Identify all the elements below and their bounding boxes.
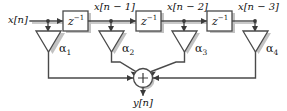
- junction-dot-1: [46, 19, 50, 23]
- delay-block-1-exp: −1: [74, 14, 84, 22]
- coefficient-label-alpha-1-index: 1: [66, 48, 71, 57]
- coefficient-label-alpha-4-index: 4: [273, 48, 278, 57]
- coefficient-label-alpha-2: α2: [122, 43, 134, 57]
- input-label: x[n]: [8, 15, 28, 25]
- junction-dot-2: [109, 19, 113, 23]
- delay-block-2-label: z−1: [141, 15, 157, 27]
- signal-label-x-n-1: x[n − 1]: [94, 2, 135, 12]
- coefficient-label-alpha-3-index: 3: [202, 48, 207, 57]
- output-label: y[n]: [133, 98, 153, 108]
- coefficient-label-alpha-3: α3: [195, 43, 207, 57]
- arrowhead-output: [140, 90, 146, 96]
- signal-label-x-n-3: x[n − 3]: [238, 2, 279, 12]
- signal-label-x-n-3-text: x[n − 3]: [238, 1, 279, 12]
- arrowhead-sum-left: [127, 75, 133, 81]
- wire-alpha3-to-sum: [150, 52, 185, 72]
- signal-label-x-n-1-text: x[n − 1]: [94, 1, 135, 12]
- input-label-text: x[n]: [8, 14, 28, 25]
- delay-block-3-label: z−1: [212, 15, 228, 27]
- delay-block-2-exp: −1: [147, 14, 157, 22]
- summing-node: [134, 69, 153, 88]
- delay-block-1-label: z−1: [68, 15, 84, 27]
- coefficient-label-alpha-1: α1: [59, 43, 71, 57]
- signal-flow-diagram: x[n] x[n − 1] x[n − 2] x[n − 3] z−1 z−1 …: [0, 0, 287, 111]
- output-label-text: y[n]: [133, 97, 153, 108]
- coefficient-label-alpha-4: α4: [266, 43, 278, 57]
- signal-label-x-n-2: x[n − 2]: [167, 2, 208, 12]
- signal-label-x-n-2-text: x[n − 2]: [167, 1, 208, 12]
- junction-dot-3: [182, 19, 186, 23]
- coefficient-label-alpha-2-index: 2: [129, 48, 134, 57]
- junction-dot-4: [253, 19, 257, 23]
- delay-block-3-exp: −1: [218, 14, 228, 22]
